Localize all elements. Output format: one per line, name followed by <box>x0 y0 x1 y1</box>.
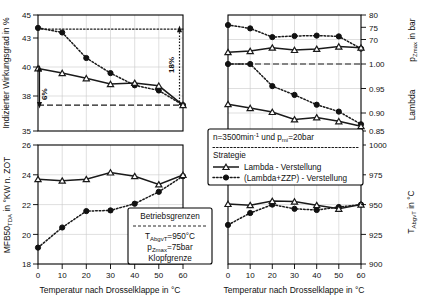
ytick-tabg-975: 975 <box>369 171 383 180</box>
ylabel-exhaust-temp: TAbgvT in °C <box>406 190 417 233</box>
x-axis-mfb50: 0 10 20 30 40 50 60 <box>36 264 188 280</box>
xtick-br-50: 50 <box>334 271 343 280</box>
ytick-pz-75: 75 <box>369 24 378 33</box>
annotation-6-percent: 6% <box>37 65 49 109</box>
limits-title: Betriebsgrenzen <box>140 212 200 221</box>
xtick-br-30: 30 <box>290 271 299 280</box>
legend-label-lambda: Lambda - Verstellung <box>244 163 322 172</box>
ytick-tabg-925: 925 <box>369 231 383 240</box>
y-axis-pzmax-lambda: 80 75 70 1.00 0.95 0.90 0.85 <box>361 11 385 136</box>
ytick-lam-090: 0.90 <box>369 109 385 118</box>
xtick-br-0: 0 <box>226 271 231 280</box>
xtick-br-20: 20 <box>268 271 277 280</box>
legend-box: n=3500min-1 und pmi=20bar Strategie Lamb… <box>208 129 363 185</box>
xtick-br-40: 40 <box>312 271 321 280</box>
xtick-bl-0: 0 <box>36 271 41 280</box>
ylabel-pzmax: pZmax in bar <box>407 18 418 62</box>
y-axis-efficiency: 45 43 40 38 35 <box>22 11 38 136</box>
xtick-bl-30: 30 <box>106 271 115 280</box>
ylabel-efficiency: Indizierter Wirkungsgrad in % <box>1 17 11 128</box>
ytick-lam-085: 0.85 <box>369 127 385 136</box>
xtick-br-60: 60 <box>357 271 366 280</box>
xtick-br-10: 10 <box>246 271 255 280</box>
xtick-bl-40: 40 <box>130 271 139 280</box>
x-axis-exhaust-temp: 0 10 20 30 40 50 60 <box>226 264 366 280</box>
limits-box: Betriebsgrenzen TAbgvT=950°C pZmax=75bar… <box>128 208 212 264</box>
xtick-bl-20: 20 <box>82 271 91 280</box>
ytick-lam-095: 0.95 <box>369 85 385 94</box>
xtick-bl-50: 50 <box>154 271 163 280</box>
limits-line-3: Klopfgrenze <box>148 254 192 263</box>
ytick-mfb-18: 18 <box>22 260 31 269</box>
ytick-eff-43: 43 <box>22 34 31 43</box>
xlabel-bottom-left: Temperatur nach Drosselklappe in °C <box>40 285 181 295</box>
panel-pzmax-lambda: 80 75 70 1.00 0.95 0.90 0.85 pZmax in ba… <box>225 11 418 136</box>
ytick-eff-45: 45 <box>22 11 31 20</box>
y-axis-mfb50: 26 24 22 20 18 <box>22 141 38 269</box>
ytick-tabg-900: 900 <box>369 260 383 269</box>
ytick-mfb-24: 24 <box>22 171 31 180</box>
xtick-bl-60: 60 <box>179 271 188 280</box>
legend-title: Strategie <box>213 151 246 160</box>
ytick-pz-80: 80 <box>369 11 378 20</box>
ytick-mfb-20: 20 <box>22 231 31 240</box>
legend-label-lambda-zzp: (Lambda+ZZP) - Verstellung <box>244 174 348 183</box>
ytick-mfb-22: 22 <box>22 201 31 210</box>
ytick-mfb-26: 26 <box>22 141 31 150</box>
ylabel-mfb50: MFB50TDA in °KW n. ZOT <box>2 157 13 254</box>
xlabel-bottom-right: Temperatur nach Drosselklappe in °C <box>224 285 365 295</box>
ytick-tabg-950: 950 <box>369 201 383 210</box>
xtick-bl-10: 10 <box>58 271 67 280</box>
ytick-lam-100: 1.00 <box>369 60 385 69</box>
legend-condition: n=3500min-1 und pmi=20bar <box>213 132 314 143</box>
label-6-percent: 6% <box>40 88 49 100</box>
ylabel-lambda: Lambda <box>407 89 417 120</box>
figure-root: 6% 18% 45 43 40 38 35 Indizierter <box>0 0 423 299</box>
ytick-eff-35: 35 <box>22 127 31 136</box>
label-18-percent: 18% <box>167 57 176 73</box>
ytick-pz-70: 70 <box>369 36 378 45</box>
ytick-eff-40: 40 <box>22 63 31 72</box>
ytick-tabg-1000: 1000 <box>369 141 387 150</box>
panel-efficiency: 6% 18% 45 43 40 38 35 Indizierter <box>1 11 186 136</box>
four-panel-chart: 6% 18% 45 43 40 38 35 Indizierter <box>0 0 423 299</box>
ytick-eff-38: 38 <box>22 92 31 101</box>
y-axis-exhaust-temp: 1000 975 950 925 900 <box>361 141 387 269</box>
